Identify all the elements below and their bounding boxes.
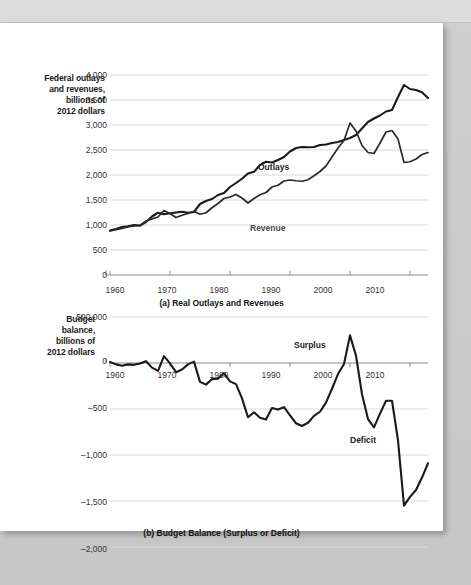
panel-b-ytick-m500: –500 bbox=[60, 403, 107, 413]
axis-title-b-line-3: billions of bbox=[10, 336, 95, 347]
panel-b-ytick-m1000: –1,000 bbox=[60, 450, 107, 460]
panel-b-xtick-1970: 1970 bbox=[147, 370, 187, 380]
outlays-label: Outlays bbox=[258, 162, 289, 172]
panel-b-xtick-1980: 1980 bbox=[199, 370, 239, 380]
panel-a-ytick-3500: 3,500 bbox=[68, 95, 107, 105]
panel-a-ytick-500: 500 bbox=[68, 245, 107, 255]
panel-a-xtick-1990: 1990 bbox=[251, 285, 291, 295]
panel-a-ytick-1500: 1,500 bbox=[68, 195, 107, 205]
panel-b-xtick-1990: 1990 bbox=[251, 370, 291, 380]
panel-a-caption: (a) Real Outlays and Revenues bbox=[0, 298, 443, 308]
panel-b-ytick-500: 500,000 bbox=[60, 312, 107, 322]
panel-b-caption: (b) Budget Balance (Surplus or Deficit) bbox=[0, 528, 443, 538]
panel-b-ytick-m2000: –2,000 bbox=[60, 544, 107, 554]
chart-panel-a: Federal outlays and revenues, billions o… bbox=[0, 47, 443, 299]
panel-b-ytick-m1500: –1,500 bbox=[60, 497, 107, 507]
panel-a-ytick-3000: 3,000 bbox=[68, 120, 107, 130]
deficit-label: Deficit bbox=[350, 435, 376, 445]
panel-a-ytick-0: 0 bbox=[68, 270, 107, 280]
panel-a-xtick-1980: 1980 bbox=[199, 285, 239, 295]
axis-title-line-2: and revenues, bbox=[10, 84, 105, 95]
panel-b-ytick-0: 0 bbox=[60, 356, 107, 366]
panel-a-ytick-2500: 2,500 bbox=[68, 145, 107, 155]
axis-title-b-line-2: balance, bbox=[10, 325, 95, 336]
top-gray-band bbox=[0, 0, 471, 23]
panel-b-xtick-2000: 2000 bbox=[303, 370, 343, 380]
panel-b-xtick-2010: 2010 bbox=[355, 370, 395, 380]
panel-a-ytick-2000: 2,000 bbox=[68, 170, 107, 180]
panel-a-xtick-2010: 2010 bbox=[355, 285, 395, 295]
panel-a-xtick-2000: 2000 bbox=[303, 285, 343, 295]
revenue-label: Revenue bbox=[250, 223, 285, 233]
figure-page: Federal outlays and revenues, billions o… bbox=[0, 23, 443, 531]
chart-panel-b: Budget balance, billions of 2012 dollars… bbox=[0, 313, 443, 533]
panel-a-xtick-1970: 1970 bbox=[147, 285, 187, 295]
panel-a-xtick-1960: 1960 bbox=[95, 285, 135, 295]
panel-a-ytick-1000: 1,000 bbox=[68, 220, 107, 230]
panel-a-ytick-4000: 4,000 bbox=[68, 70, 107, 80]
axis-title-line-4: 2012 dollars bbox=[10, 106, 105, 117]
panel-b-xtick-1960: 1960 bbox=[95, 370, 135, 380]
surplus-label: Surplus bbox=[294, 340, 326, 350]
